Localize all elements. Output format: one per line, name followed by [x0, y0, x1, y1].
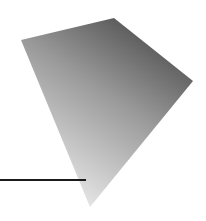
geometric-figure [0, 0, 206, 221]
gradient-quadrilateral [21, 18, 193, 207]
